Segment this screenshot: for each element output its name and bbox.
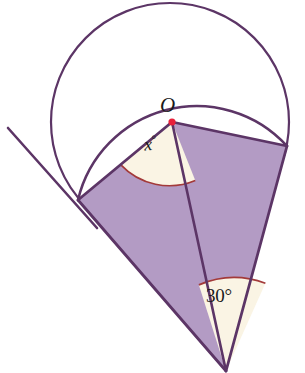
geometry-diagram: O x° 30° (0, 0, 305, 373)
center-point-label: O (160, 95, 175, 116)
angle-30-label: 30° (206, 286, 232, 305)
center-point-dot (168, 118, 175, 125)
geometry-canvas (0, 0, 305, 373)
angle-x-degree-symbol: ° (151, 133, 156, 145)
angle-x-label: x° (143, 134, 157, 154)
